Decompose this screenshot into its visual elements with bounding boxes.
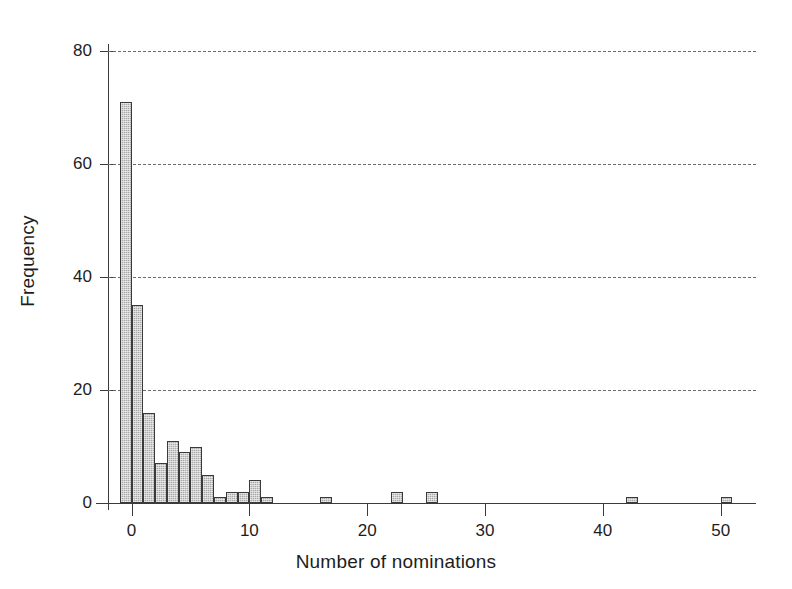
- x-axis-tick: [249, 503, 250, 516]
- histogram-bar: [626, 497, 638, 503]
- x-axis-tick: [485, 503, 486, 516]
- histogram-bar: [120, 102, 132, 503]
- histogram-bar: [238, 492, 250, 503]
- histogram-bar: [320, 497, 332, 503]
- x-axis-label: Number of nominations: [0, 551, 792, 573]
- x-axis-tick-label: 30: [455, 521, 515, 541]
- histogram-bar: [391, 492, 403, 503]
- gridline: [108, 51, 756, 52]
- histogram-bar: [179, 452, 191, 503]
- histogram-bar: [190, 447, 202, 504]
- x-axis-tick-label: 20: [337, 521, 397, 541]
- x-axis-tick: [603, 503, 604, 516]
- y-axis-tick-label: 60: [32, 154, 92, 174]
- histogram-bar: [721, 497, 733, 503]
- gridline: [108, 164, 756, 165]
- x-axis-tick: [367, 503, 368, 516]
- histogram-bar: [426, 492, 438, 503]
- histogram-bar: [167, 441, 179, 503]
- x-axis-tick-label: 10: [219, 521, 279, 541]
- histogram-bar: [226, 492, 238, 503]
- y-axis-tick-label: 80: [32, 41, 92, 61]
- x-axis-tick: [721, 503, 722, 516]
- histogram-figure: Frequency 020406080 01020304050 Number o…: [0, 0, 792, 589]
- histogram-bar: [261, 497, 273, 503]
- x-axis-line: [96, 503, 756, 504]
- histogram-bar: [202, 475, 214, 503]
- plot-area: [108, 51, 756, 503]
- x-axis-tick-label: 50: [691, 521, 751, 541]
- x-axis-tick-label: 0: [102, 521, 162, 541]
- x-axis-tick-label: 40: [573, 521, 633, 541]
- histogram-bar: [155, 463, 167, 503]
- x-axis-tick: [132, 503, 133, 516]
- histogram-bar: [214, 497, 226, 503]
- y-axis-tick-label: 0: [32, 493, 92, 513]
- gridline: [108, 277, 756, 278]
- gridline: [108, 390, 756, 391]
- histogram-bar: [143, 413, 155, 503]
- histogram-bar: [132, 305, 144, 503]
- y-axis-tick-label: 40: [32, 267, 92, 287]
- histogram-bar: [249, 480, 261, 503]
- y-axis-tick-label: 20: [32, 380, 92, 400]
